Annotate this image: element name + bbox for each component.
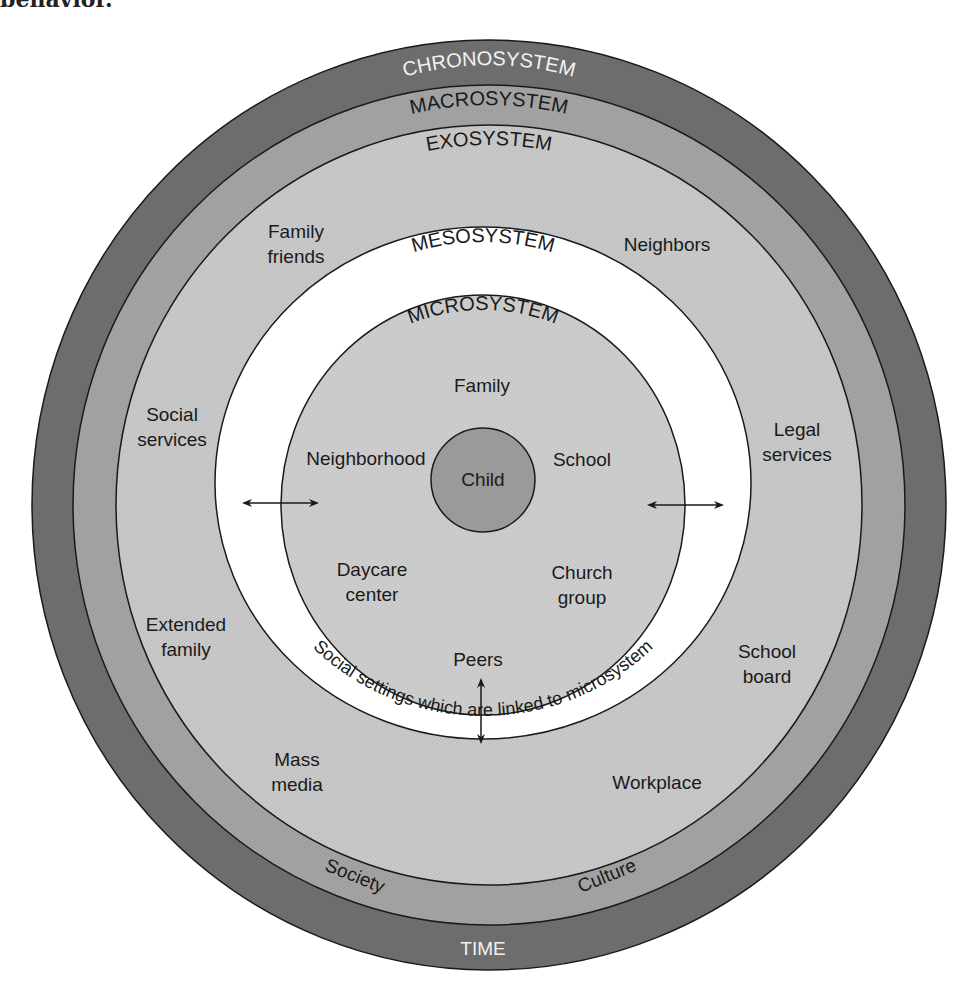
svg-text:Legal: Legal	[774, 419, 821, 440]
microsystem-item-neighborhood: Neighborhood	[306, 448, 425, 469]
svg-text:Daycare: Daycare	[337, 559, 408, 580]
svg-text:media: media	[271, 774, 323, 795]
svg-text:family: family	[161, 639, 211, 660]
svg-text:group: group	[558, 587, 607, 608]
svg-text:Workplace: Workplace	[612, 772, 701, 793]
svg-text:board: board	[743, 666, 792, 687]
microsystem-item-peers: Peers	[453, 649, 503, 670]
svg-text:Neighbors: Neighbors	[624, 234, 711, 255]
exosystem-item-neighbors: Neighbors	[624, 234, 711, 255]
child-label: Child	[461, 469, 504, 490]
svg-text:Peers: Peers	[453, 649, 503, 670]
svg-text:services: services	[762, 444, 832, 465]
svg-text:Family: Family	[454, 375, 510, 396]
svg-text:services: services	[137, 429, 207, 450]
svg-text:Social: Social	[146, 404, 198, 425]
chronosystem-label-time: TIME	[460, 938, 505, 959]
svg-text:Extended: Extended	[146, 614, 226, 635]
svg-text:Church: Church	[551, 562, 612, 583]
svg-text:Family: Family	[268, 221, 324, 242]
svg-text:School: School	[738, 641, 796, 662]
svg-text:Mass: Mass	[274, 749, 319, 770]
bronfenbrenner-diagram: CHRONOSYSTEM MACROSYSTEM EXOSYSTEM MESOS…	[0, 0, 956, 1000]
svg-text:Neighborhood: Neighborhood	[306, 448, 425, 469]
svg-text:friends: friends	[267, 246, 324, 267]
microsystem-item-family: Family	[454, 375, 510, 396]
svg-text:School: School	[553, 449, 611, 470]
exosystem-item-workplace: Workplace	[612, 772, 701, 793]
svg-text:center: center	[346, 584, 399, 605]
microsystem-item-school: School	[553, 449, 611, 470]
